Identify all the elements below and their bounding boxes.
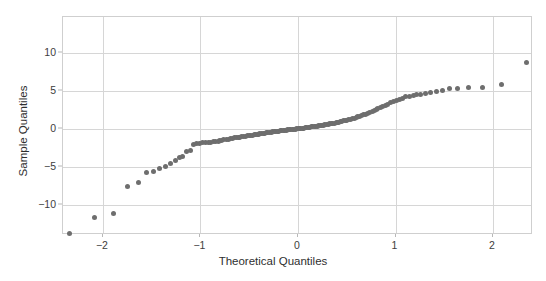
scatter-point: [163, 164, 168, 169]
x-tick-mark: [492, 234, 493, 237]
y-tick-label: 10: [8, 46, 56, 58]
scatter-point: [524, 60, 529, 65]
x-tick-label: 2: [472, 239, 512, 251]
scatter-point: [180, 154, 185, 159]
y-tick-label: −5: [8, 160, 56, 172]
scatter-point: [428, 90, 433, 95]
x-tick-label: −2: [82, 239, 122, 251]
x-tick-mark: [395, 234, 396, 237]
gridline-vertical: [298, 17, 299, 233]
x-axis-label: Theoretical Quantiles: [0, 255, 546, 267]
gridline-horizontal: [63, 167, 531, 168]
scatter-point: [92, 215, 97, 220]
gridline-vertical: [396, 17, 397, 233]
x-tick-label: 1: [375, 239, 415, 251]
gridline-horizontal: [63, 205, 531, 206]
scatter-point: [440, 88, 445, 93]
scatter-point: [125, 184, 130, 189]
scatter-point: [480, 85, 485, 90]
y-tick-label: 5: [8, 84, 56, 96]
y-tick-mark: [58, 165, 62, 166]
scatter-point: [111, 211, 116, 216]
scatter-point: [434, 89, 439, 94]
y-tick-mark: [58, 203, 62, 204]
y-tick-mark: [58, 89, 62, 90]
gridline-horizontal: [63, 53, 531, 54]
x-tick-mark: [102, 234, 103, 237]
y-tick-mark: [58, 51, 62, 52]
qq-plot-figure: 1050−5−10−2−1012 Theoretical Quantiles S…: [0, 0, 546, 281]
scatter-point: [136, 180, 141, 185]
y-tick-label: 0: [8, 122, 56, 134]
plot-area: [62, 16, 532, 234]
gridline-vertical: [200, 17, 201, 233]
y-axis-label: Sample Quantiles: [17, 61, 29, 201]
x-tick-mark: [297, 234, 298, 237]
x-tick-label: 0: [277, 239, 317, 251]
scatter-point: [67, 231, 72, 236]
scatter-point: [466, 85, 471, 90]
scatter-point: [168, 161, 173, 166]
y-tick-label: −10: [8, 198, 56, 210]
x-tick-label: −1: [179, 239, 219, 251]
y-tick-mark: [58, 127, 62, 128]
scatter-point: [499, 82, 504, 87]
scatter-point: [447, 86, 452, 91]
scatter-point: [188, 148, 193, 153]
gridline-horizontal: [63, 91, 531, 92]
gridline-vertical: [493, 17, 494, 233]
scatter-point: [151, 169, 156, 174]
scatter-point: [144, 170, 149, 175]
x-tick-mark: [199, 234, 200, 237]
gridline-vertical: [103, 17, 104, 233]
scatter-point: [157, 166, 162, 171]
